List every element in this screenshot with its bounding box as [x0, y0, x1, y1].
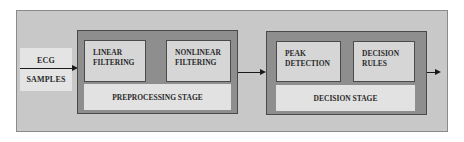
decision-rules-line2: RULES	[362, 59, 414, 69]
nonlinear-filtering-block: NONLINEAR FILTERING	[166, 40, 231, 82]
linear-filtering-line1: LINEAR	[93, 48, 145, 58]
linear-filtering-block: LINEAR FILTERING	[84, 40, 146, 82]
input-label-line1: ECG	[20, 56, 72, 65]
peak-detection-line2: DETECTION	[285, 59, 340, 69]
nonlinear-filtering-line2: FILTERING	[175, 58, 230, 68]
decision-rules-block: DECISION RULES	[353, 41, 415, 82]
decision-rules-line1: DECISION	[362, 49, 414, 59]
decision-stage-label: DECISION STAGE	[276, 85, 415, 111]
linear-filtering-line2: FILTERING	[93, 58, 145, 68]
peak-detection-block: PEAK DETECTION	[276, 41, 341, 82]
input-arrow-line	[20, 68, 72, 69]
ecg-samples-input-box: ECG SAMPLES	[20, 48, 72, 91]
peak-detection-line1: PEAK	[285, 49, 340, 59]
preprocessing-stage-label: PREPROCESSING STAGE	[84, 84, 231, 110]
input-label-line2: SAMPLES	[20, 75, 72, 84]
stage-arrow-line	[238, 72, 261, 73]
nonlinear-filtering-line1: NONLINEAR	[175, 48, 230, 58]
output-arrow-head-icon	[435, 69, 441, 75]
